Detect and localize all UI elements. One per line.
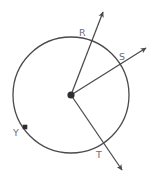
- ray-to-S: [71, 48, 146, 95]
- label-R: R: [79, 27, 86, 38]
- label-Y: Y: [12, 127, 19, 138]
- label-T: T: [95, 149, 102, 160]
- point-Y-marker: [23, 125, 28, 130]
- circle-diagram: R S T Y: [0, 0, 154, 178]
- center-point: [67, 91, 74, 98]
- ray-to-R: [71, 12, 103, 95]
- geometry-canvas: R S T Y: [0, 0, 154, 178]
- label-S: S: [119, 51, 125, 62]
